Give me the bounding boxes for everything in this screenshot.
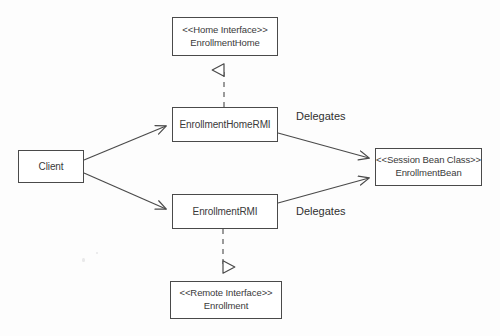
node-session-bean-stereotype: <<Session Bean Class>>	[376, 154, 481, 167]
node-home-interface[interactable]: <<Home Interface>> EnrollmentHome	[172, 17, 278, 56]
node-enrollment-rmi-label: EnrollmentRMI	[193, 205, 258, 218]
node-remote-interface-label: Enrollment	[204, 300, 248, 313]
node-enrollment-home-rmi-label: EnrollmentHomeRMI	[179, 118, 270, 131]
node-remote-interface-stereotype: <<Remote Interface>>	[179, 287, 272, 300]
edge-client-to-home-rmi	[84, 126, 166, 160]
edge-client-to-remote-rmi	[84, 173, 166, 209]
edge-label-delegates-bottom: Delegates	[296, 205, 346, 217]
node-enrollment-home-rmi[interactable]: EnrollmentHomeRMI	[172, 107, 278, 142]
diagram-canvas: Client <<Home Interface>> EnrollmentHome…	[0, 0, 500, 336]
node-enrollment-rmi[interactable]: EnrollmentRMI	[172, 194, 278, 229]
node-session-bean-label: EnrollmentBean	[395, 167, 461, 180]
edge-remote-rmi-to-session-bean	[278, 178, 369, 203]
node-home-interface-label: EnrollmentHome	[190, 37, 259, 50]
edge-label-delegates-top: Delegates	[296, 110, 346, 122]
node-client-label: Client	[39, 160, 64, 173]
scan-artifact	[82, 258, 85, 262]
node-session-bean[interactable]: <<Session Bean Class>> EnrollmentBean	[375, 148, 482, 186]
node-remote-interface[interactable]: <<Remote Interface>> Enrollment	[170, 281, 282, 319]
node-client[interactable]: Client	[18, 150, 84, 183]
edge-home-rmi-to-session-bean	[278, 133, 369, 158]
node-home-interface-stereotype: <<Home Interface>>	[182, 24, 267, 37]
scan-artifact	[96, 252, 98, 254]
